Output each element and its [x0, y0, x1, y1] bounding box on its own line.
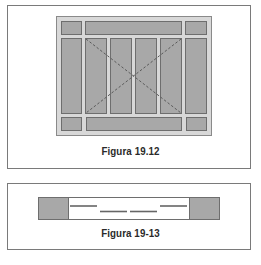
figure-caption-19-13: Figura 19-13: [20, 227, 242, 239]
sliding-plan-diagram: [0, 0, 261, 265]
